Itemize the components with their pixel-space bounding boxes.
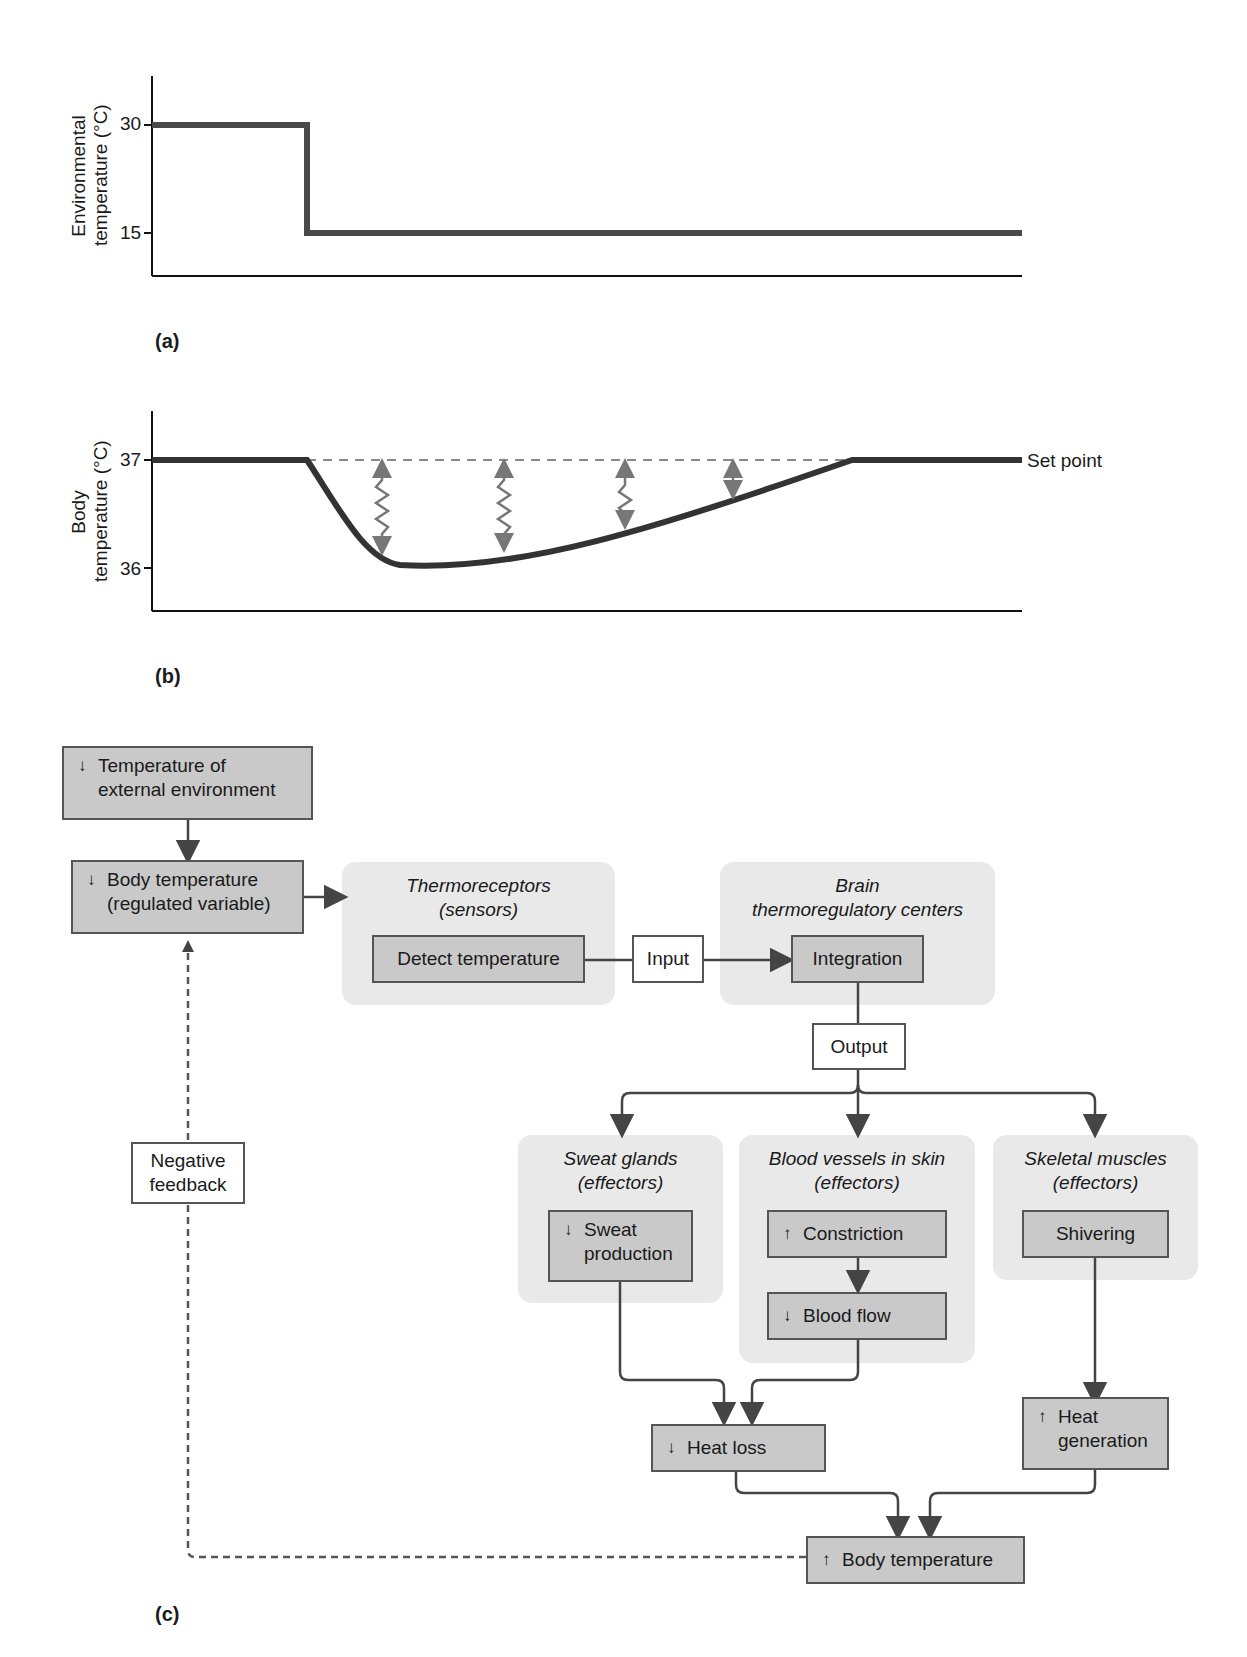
box-text: Blood flow xyxy=(803,1304,891,1328)
box-integration: Integration xyxy=(791,935,924,983)
box-sweat-production: ↓ Sweat production xyxy=(548,1210,693,1282)
box-body-temperature-result: ↑ Body temperature xyxy=(806,1536,1025,1584)
arrow-down-icon: ↓ xyxy=(667,1436,681,1460)
box-text: Heat loss xyxy=(687,1436,766,1460)
box-text: Heat generation xyxy=(1058,1405,1148,1453)
box-constriction: ↑ Constriction xyxy=(767,1210,947,1258)
box-blood-flow: ↓ Blood flow xyxy=(767,1292,947,1340)
arrow-up-icon: ↑ xyxy=(783,1222,797,1246)
arrow-up-icon: ↑ xyxy=(822,1548,836,1572)
box-external-temperature: ↓ Temperature of external environment xyxy=(62,746,313,820)
box-text: Temperature of external environment xyxy=(98,754,275,802)
box-text: Detect temperature xyxy=(397,947,560,971)
arrow-down-icon: ↓ xyxy=(78,754,92,778)
box-text: Constriction xyxy=(803,1222,903,1246)
box-text: Integration xyxy=(813,947,903,971)
arrow-up-icon: ↑ xyxy=(1038,1405,1052,1429)
box-heat-generation: ↑ Heat generation xyxy=(1022,1397,1169,1470)
panel-label-c: (c) xyxy=(155,1603,179,1626)
arrow-down-icon: ↓ xyxy=(564,1218,578,1242)
box-text: Shivering xyxy=(1056,1222,1135,1246)
box-detect-temperature: Detect temperature xyxy=(372,935,585,983)
box-body-temperature-regulated: ↓ Body temperature (regulated variable) xyxy=(71,860,304,934)
arrow-down-icon: ↓ xyxy=(783,1304,797,1328)
box-negative-feedback: Negative feedback xyxy=(131,1142,245,1204)
box-text: Body temperature xyxy=(842,1548,993,1572)
box-output: Output xyxy=(812,1023,906,1070)
box-input: Input xyxy=(632,935,704,983)
box-text: Body temperature (regulated variable) xyxy=(107,868,271,916)
box-text: Negative feedback xyxy=(149,1149,226,1197)
box-text: Input xyxy=(647,947,689,971)
box-text: Output xyxy=(830,1035,887,1059)
box-text: Sweat production xyxy=(584,1218,673,1266)
box-shivering: Shivering xyxy=(1022,1210,1169,1258)
box-heat-loss: ↓ Heat loss xyxy=(651,1424,826,1472)
arrow-down-icon: ↓ xyxy=(87,868,101,892)
